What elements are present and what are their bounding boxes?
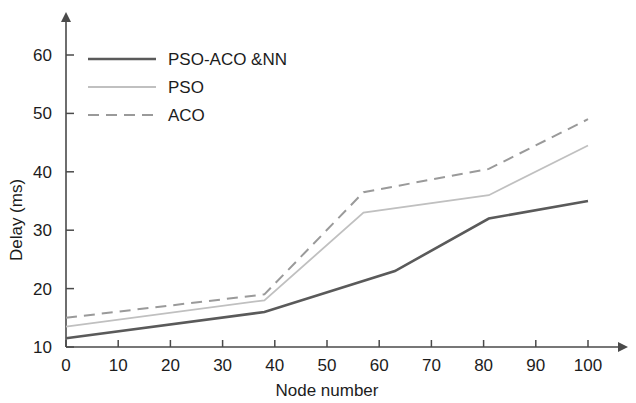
x-axis-tick-labels: 0102030405060708090100 xyxy=(61,356,602,375)
x-tick-label: 0 xyxy=(61,356,70,375)
y-axis-title: Delay (ms) xyxy=(7,179,26,261)
y-tick-label: 60 xyxy=(33,46,52,65)
x-tick-label: 70 xyxy=(422,356,441,375)
data-series xyxy=(66,119,588,338)
x-tick-label: 40 xyxy=(265,356,284,375)
series-line-pso-aco-nn xyxy=(66,201,588,338)
y-tick-label: 30 xyxy=(33,221,52,240)
legend-label-pso: PSO xyxy=(168,78,204,97)
chart-svg: 0102030405060708090100 102030405060 PSO-… xyxy=(0,0,636,403)
x-tick-label: 50 xyxy=(318,356,337,375)
chart-legend: PSO-ACO &NNPSOACO xyxy=(88,50,287,125)
y-tick-label: 20 xyxy=(33,280,52,299)
delay-vs-node-number-chart: 0102030405060708090100 102030405060 PSO-… xyxy=(0,0,636,403)
legend-label-aco: ACO xyxy=(168,106,205,125)
legend-label-pso-aco-nn: PSO-ACO &NN xyxy=(168,50,287,69)
x-axis-title: Node number xyxy=(275,381,378,400)
axis-ticks xyxy=(66,55,588,347)
axes xyxy=(61,12,628,352)
x-tick-label: 90 xyxy=(526,356,545,375)
series-line-aco xyxy=(66,119,588,318)
x-tick-label: 60 xyxy=(370,356,389,375)
x-tick-label: 80 xyxy=(474,356,493,375)
x-tick-label: 20 xyxy=(161,356,180,375)
legend-item-pso-aco-nn: PSO-ACO &NN xyxy=(88,50,287,69)
y-axis-tick-labels: 102030405060 xyxy=(33,46,52,357)
x-axis-arrowhead xyxy=(618,342,628,352)
legend-item-aco: ACO xyxy=(88,106,205,125)
x-tick-label: 10 xyxy=(109,356,128,375)
y-tick-label: 10 xyxy=(33,338,52,357)
y-tick-label: 50 xyxy=(33,104,52,123)
x-tick-label: 100 xyxy=(574,356,602,375)
series-line-pso xyxy=(66,146,588,327)
x-tick-label: 30 xyxy=(213,356,232,375)
legend-item-pso: PSO xyxy=(88,78,204,97)
y-axis-arrowhead xyxy=(61,12,71,22)
y-tick-label: 40 xyxy=(33,163,52,182)
